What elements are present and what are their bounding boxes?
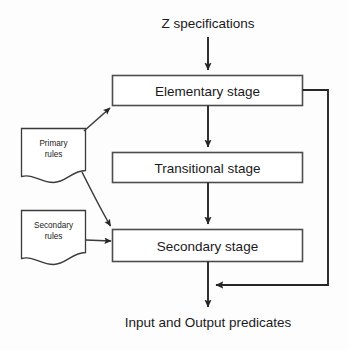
label-primary-rules-line1: Primary xyxy=(39,139,68,148)
label-primary-rules-line2: rules xyxy=(45,150,63,159)
bottom-output-label: Input and Output predicates xyxy=(125,315,292,330)
arrow-primary-to-secondary xyxy=(82,172,111,226)
top-input-label: Z specifications xyxy=(161,16,254,31)
flow-diagram: Z specifications Elementary stage Transi… xyxy=(0,0,348,350)
arrow-secondaryrules-to-secondary xyxy=(86,240,111,241)
label-transitional-stage: Transitional stage xyxy=(154,161,260,176)
arrow-primary-to-elementary xyxy=(84,108,110,131)
diagram-canvas: Z specifications Elementary stage Transi… xyxy=(0,0,348,350)
label-secondary-rules-line2: rules xyxy=(45,232,63,241)
label-elementary-stage: Elementary stage xyxy=(155,84,260,99)
label-secondary-stage: Secondary stage xyxy=(157,239,258,254)
label-secondary-rules-line1: Secondary xyxy=(34,221,74,230)
